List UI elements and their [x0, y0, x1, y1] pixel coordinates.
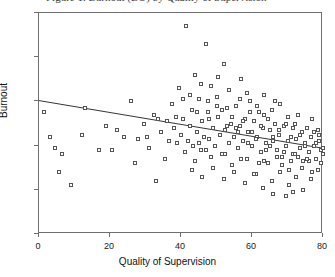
- data-point: [183, 150, 187, 154]
- data-point: [266, 161, 270, 165]
- data-point: [207, 117, 211, 121]
- x-tick-label: 0: [35, 241, 40, 251]
- data-point: [234, 104, 238, 108]
- data-point: [222, 177, 226, 181]
- data-point: [305, 126, 309, 130]
- data-point: [317, 133, 321, 137]
- data-point: [170, 102, 174, 106]
- data-point: [175, 141, 179, 145]
- data-point: [230, 163, 234, 167]
- data-point: [238, 97, 242, 101]
- x-tick-mark: [180, 233, 181, 237]
- data-point: [184, 24, 188, 28]
- data-point: [314, 157, 318, 161]
- data-point: [222, 62, 226, 66]
- data-point: [209, 84, 213, 88]
- data-point: [257, 110, 261, 114]
- data-point: [136, 137, 140, 141]
- data-point: [225, 124, 229, 128]
- data-point: [159, 130, 163, 134]
- data-point: [278, 170, 282, 174]
- data-point: [298, 133, 302, 137]
- data-point: [262, 93, 266, 97]
- data-point: [298, 146, 302, 150]
- data-point: [236, 130, 240, 134]
- data-point: [293, 152, 297, 156]
- data-point: [246, 141, 250, 145]
- data-point: [238, 124, 242, 128]
- data-point: [321, 146, 325, 150]
- data-point: [245, 91, 249, 95]
- data-point: [227, 88, 231, 92]
- data-point: [122, 135, 126, 139]
- data-point: [197, 141, 201, 145]
- data-point: [223, 152, 227, 156]
- data-point: [250, 144, 254, 148]
- data-point: [268, 128, 272, 132]
- data-point: [271, 139, 275, 143]
- data-point: [273, 99, 277, 103]
- data-point: [312, 130, 316, 134]
- data-point: [259, 124, 263, 128]
- data-point: [163, 157, 167, 161]
- data-point: [248, 110, 252, 114]
- x-tick-mark: [322, 233, 323, 237]
- data-point: [287, 168, 291, 172]
- data-point: [165, 119, 169, 123]
- data-point: [321, 152, 325, 156]
- clipped-caption-strip: Figure 1. Burnout (BO) by Quality of Sup…: [0, 0, 335, 11]
- data-point: [282, 150, 286, 154]
- data-point: [207, 137, 211, 141]
- data-point: [271, 135, 275, 139]
- data-point: [284, 144, 288, 148]
- data-point: [179, 133, 183, 137]
- data-point: [80, 133, 84, 137]
- data-point: [48, 135, 52, 139]
- data-point: [284, 122, 288, 126]
- data-point: [190, 168, 194, 172]
- data-point: [268, 144, 272, 148]
- data-point: [69, 183, 73, 187]
- data-point: [291, 126, 295, 130]
- data-point: [293, 122, 297, 126]
- data-point: [234, 126, 238, 130]
- data-point: [216, 75, 220, 79]
- data-point: [278, 102, 282, 106]
- x-tick-mark: [38, 233, 39, 237]
- data-point: [174, 115, 178, 119]
- data-point: [229, 122, 233, 126]
- data-point: [271, 192, 275, 196]
- data-point: [310, 170, 314, 174]
- data-point: [300, 166, 304, 170]
- data-point: [215, 95, 219, 99]
- data-point: [115, 128, 119, 132]
- data-point: [266, 117, 270, 121]
- data-point: [167, 139, 171, 143]
- data-point: [286, 115, 290, 119]
- data-point: [262, 113, 266, 117]
- data-point: [250, 130, 254, 134]
- data-point: [286, 139, 290, 143]
- data-point: [57, 170, 61, 174]
- data-points-layer: [39, 13, 321, 232]
- scatter-plot-figure: Figure 1. Burnout (BO) by Quality of Sup…: [0, 0, 335, 277]
- data-point: [83, 106, 87, 110]
- data-point: [316, 168, 320, 172]
- data-point: [172, 126, 176, 130]
- x-tick-label: 40: [175, 241, 185, 251]
- figure-caption-text: Figure 1. Burnout (BO) by Quality of Sup…: [46, 0, 267, 3]
- data-point: [252, 172, 256, 176]
- data-point: [277, 128, 281, 132]
- data-point: [60, 152, 64, 156]
- data-point: [195, 110, 199, 114]
- data-point: [202, 135, 206, 139]
- data-point: [289, 159, 293, 163]
- data-point: [53, 146, 57, 150]
- data-point: [104, 124, 108, 128]
- data-point: [275, 148, 279, 152]
- data-point: [215, 104, 219, 108]
- data-point: [181, 117, 185, 121]
- data-point: [236, 146, 240, 150]
- data-point: [195, 130, 199, 134]
- data-point: [248, 99, 252, 103]
